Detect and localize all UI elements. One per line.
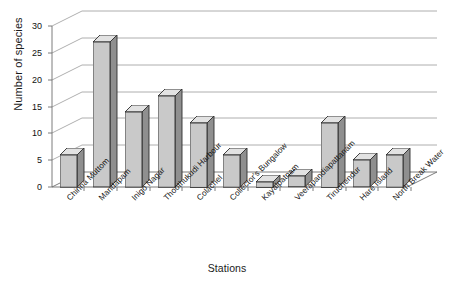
y-tick-label: 20 xyxy=(16,76,42,85)
y-tick-label: 25 xyxy=(16,49,42,58)
y-tick-label: 15 xyxy=(16,103,42,112)
plot-area xyxy=(0,0,454,288)
y-tick-label: 5 xyxy=(16,156,42,165)
y-axis-ticks xyxy=(48,26,52,187)
plot-graphics xyxy=(0,0,454,288)
y-tick-label: 10 xyxy=(16,129,42,138)
y-tick-label: 30 xyxy=(16,22,42,31)
x-axis-title: Stations xyxy=(0,262,454,274)
y-tick-label: 0 xyxy=(16,183,42,192)
bar-chart: Number of species xyxy=(0,0,454,288)
